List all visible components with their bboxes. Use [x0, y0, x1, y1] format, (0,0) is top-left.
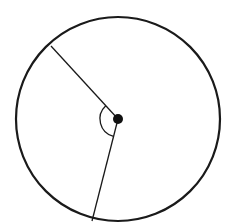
radius-lower — [92, 119, 118, 221]
angle-arc — [100, 106, 114, 137]
center-point — [113, 114, 123, 124]
radius-upper-left — [51, 46, 118, 119]
circle-diagram — [0, 0, 225, 224]
